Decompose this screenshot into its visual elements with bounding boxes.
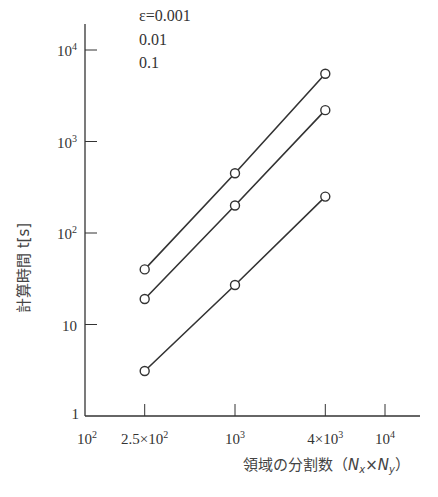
x-tick-label: 104 [375, 429, 395, 447]
y-tick-label: 1 [72, 406, 80, 422]
data-point-marker [140, 265, 149, 274]
data-point-marker [231, 201, 240, 210]
series-1 [140, 69, 330, 274]
data-point-marker [140, 367, 149, 376]
data-series [140, 69, 330, 375]
y-tick-label: 102 [57, 224, 77, 242]
y-axis-label: 計算時間 t[s] [15, 223, 33, 313]
series-3 [140, 192, 330, 375]
x-tick-label: 102 [77, 429, 97, 447]
log-log-line-chart: 1022.5×1021034×103104110102103104 ε=0.00… [0, 0, 438, 497]
axes [85, 24, 420, 416]
y-tick-label: 104 [57, 41, 77, 59]
legend: ε=0.0010.010.1 [139, 7, 191, 71]
x-tick-label: 2.5×102 [121, 429, 168, 447]
legend-entry: ε=0.001 [139, 7, 191, 24]
x-tick-label: 103 [225, 429, 245, 447]
y-tick-label: 103 [57, 133, 77, 151]
legend-entry: 0.01 [139, 31, 167, 48]
data-point-marker [231, 169, 240, 178]
x-tick-label: 4×103 [307, 429, 343, 447]
legend-entry: 0.1 [139, 54, 159, 71]
y-tick-label: 10 [62, 318, 77, 334]
data-point-marker [321, 192, 330, 201]
data-point-marker [140, 294, 149, 303]
data-point-marker [231, 281, 240, 290]
axis-ticks: 1022.5×1021034×103104110102103104 [57, 41, 395, 447]
x-axis-label: 領域の分割数（Nx×Ny） [243, 456, 410, 475]
data-point-marker [321, 106, 330, 115]
data-point-marker [321, 69, 330, 78]
series-2 [140, 106, 330, 304]
